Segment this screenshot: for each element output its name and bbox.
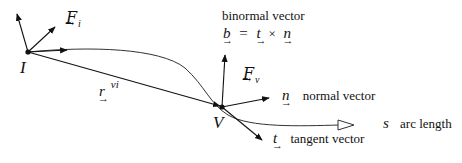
tangent-t-symbol: t	[273, 130, 277, 147]
binormal-vector-title: binormal vector	[222, 8, 305, 24]
binormal-b-symbol: b	[223, 25, 231, 42]
normal-vector-arrow	[222, 98, 269, 107]
point-i-label: I	[20, 58, 26, 78]
point-v-label: V	[213, 113, 223, 133]
frame-i-subscript: i	[78, 18, 81, 29]
binormal-equation: b = t × n	[223, 25, 291, 42]
normal-n-symbol: n	[282, 87, 290, 104]
point-i-dot	[25, 49, 30, 54]
arc-length-symbol: s	[383, 115, 389, 131]
binormal-t-symbol: t	[256, 25, 260, 42]
binormal-vector-arrow	[222, 55, 225, 107]
frame-i-axis-up	[17, 14, 28, 52]
frame-v-label: Fv	[243, 64, 260, 83]
tangent-vector-text: tangent vector	[290, 131, 364, 146]
frame-i-axis-diag	[28, 27, 55, 52]
position-vector-r	[28, 52, 220, 106]
arc-length-arrowhead	[338, 120, 354, 130]
normal-vector-label: n normal vector	[282, 87, 375, 104]
cross-product-sign: ×	[268, 26, 275, 41]
position-vector-superscript: vi	[111, 78, 119, 90]
point-v-dot	[219, 104, 224, 109]
frame-v-subscript: v	[255, 74, 259, 85]
arc-length-label: s arc length	[383, 115, 452, 132]
normal-vector-text: normal vector	[303, 88, 376, 103]
position-vector-symbol: r	[99, 83, 105, 100]
frame-v-symbol: F	[243, 64, 254, 83]
binormal-n-symbol: n	[283, 25, 291, 42]
tangent-vector-label: t tangent vector	[273, 130, 364, 147]
position-vector-label: rvi	[99, 83, 119, 100]
arc-length-text: arc length	[400, 116, 452, 131]
frame-i-label: Fi	[66, 8, 81, 27]
equals-sign: =	[239, 25, 247, 41]
frame-i-symbol: F	[66, 8, 77, 27]
